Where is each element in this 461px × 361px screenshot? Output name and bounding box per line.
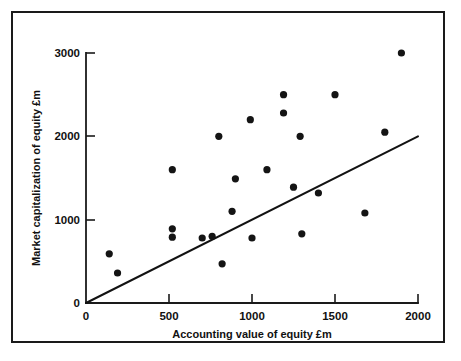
data-point bbox=[114, 269, 121, 276]
data-point bbox=[232, 175, 239, 182]
data-point bbox=[297, 133, 304, 140]
data-point bbox=[169, 234, 176, 241]
y-tick-label-1000: 1000 bbox=[54, 214, 80, 226]
data-point bbox=[315, 189, 322, 196]
data-point bbox=[298, 230, 305, 237]
data-point bbox=[248, 234, 255, 241]
y-axis-title: Market capitalization of equity £m bbox=[30, 90, 42, 266]
x-axis-ticks bbox=[169, 294, 418, 303]
x-tick-label-500: 500 bbox=[159, 310, 178, 322]
data-point bbox=[280, 91, 287, 98]
scatter-plot: 3000 2000 1000 0 0 500 1000 1500 2000 Ac… bbox=[0, 0, 461, 361]
x-tick-label-2000: 2000 bbox=[405, 310, 431, 322]
y-axis-ticks bbox=[86, 53, 95, 220]
data-point bbox=[209, 233, 216, 240]
data-point bbox=[361, 209, 368, 216]
figure-container: 3000 2000 1000 0 0 500 1000 1500 2000 Ac… bbox=[0, 0, 461, 361]
data-point bbox=[331, 91, 338, 98]
data-point bbox=[247, 116, 254, 123]
x-axis-title: Accounting value of equity £m bbox=[172, 328, 332, 340]
data-point bbox=[263, 166, 270, 173]
y-tick-label-3000: 3000 bbox=[54, 47, 80, 59]
data-point bbox=[106, 250, 113, 257]
data-point bbox=[215, 133, 222, 140]
data-point-group bbox=[106, 49, 405, 276]
data-point bbox=[169, 225, 176, 232]
data-point bbox=[199, 234, 206, 241]
data-point bbox=[398, 49, 405, 56]
data-point bbox=[381, 129, 388, 136]
y-tick-label-0: 0 bbox=[74, 297, 80, 309]
x-tick-label-1000: 1000 bbox=[239, 310, 265, 322]
x-tick-label-1500: 1500 bbox=[322, 310, 348, 322]
regression-line bbox=[86, 136, 418, 303]
data-point bbox=[219, 260, 226, 267]
x-tick-label-0: 0 bbox=[83, 310, 89, 322]
data-point bbox=[290, 184, 297, 191]
data-point bbox=[280, 109, 287, 116]
y-tick-label-2000: 2000 bbox=[54, 130, 80, 142]
data-point bbox=[169, 166, 176, 173]
data-point bbox=[228, 208, 235, 215]
